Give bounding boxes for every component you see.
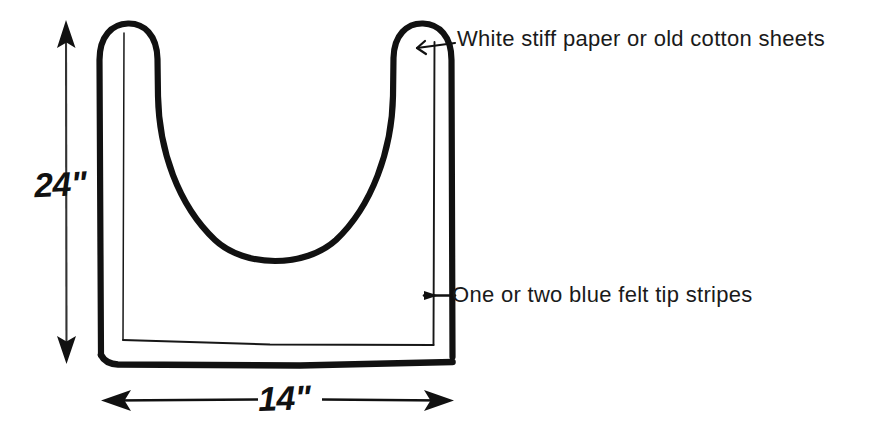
bag-outer-outline — [100, 23, 453, 357]
bag-outline-group — [100, 23, 453, 365]
bag-drawing — [0, 0, 891, 440]
annotation-label-stripes: One or two blue felt tip stripes — [452, 284, 753, 306]
bag-bottom-edge — [101, 355, 453, 366]
bag-inner-stripe-group — [123, 33, 435, 345]
dimension-width-line-right — [322, 400, 444, 401]
dimension-label-height: 24" — [33, 166, 87, 203]
bag-left-inner-stripe — [123, 33, 124, 340]
bag-right-inner-stripe — [434, 42, 435, 345]
annotation-label-material: White stiff paper or old cotton sheets — [457, 28, 825, 50]
leader-stripes-arrowhead — [424, 291, 438, 300]
figure-canvas: White stiff paper or old cotton sheets O… — [0, 0, 891, 440]
dimension-label-width: 14" — [257, 380, 311, 416]
bag-bottom-inner-stripe — [123, 340, 434, 345]
dimension-width-line-left — [112, 400, 258, 401]
